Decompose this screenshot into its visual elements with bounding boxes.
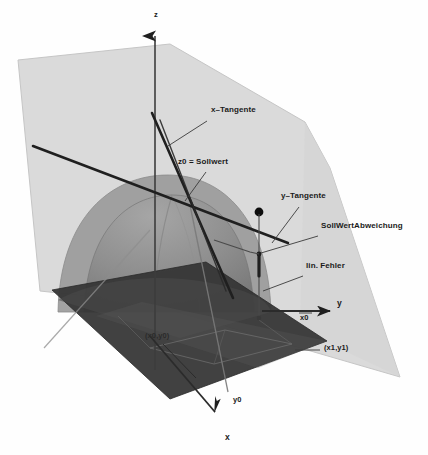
annotation-lin-fehler: lin. Fehler (306, 262, 345, 270)
annotation-sollwertabweichung: SollWertAbweichung (321, 222, 403, 230)
annotation-point-x1y1: (x1,y1) (324, 344, 348, 352)
axis-label-y: y (337, 299, 342, 308)
annotation-x-tangente: x–Tangente (211, 106, 256, 114)
annotation-z0-sollwert: z0 = Sollwert (178, 158, 228, 166)
annotation-x0: x0 (300, 314, 309, 322)
diagram-canvas: z x–Tangente z0 = Sollwert y–Tangente So… (0, 0, 428, 455)
axis-label-z: z (154, 11, 158, 19)
annotation-point-x0y0: (x0,y0) (145, 332, 169, 340)
axis-label-x: x (225, 433, 230, 442)
annotation-y0: y0 (233, 396, 242, 404)
annotation-y-tangente: y–Tangente (281, 192, 326, 200)
deviation-foot-dot (257, 316, 262, 321)
